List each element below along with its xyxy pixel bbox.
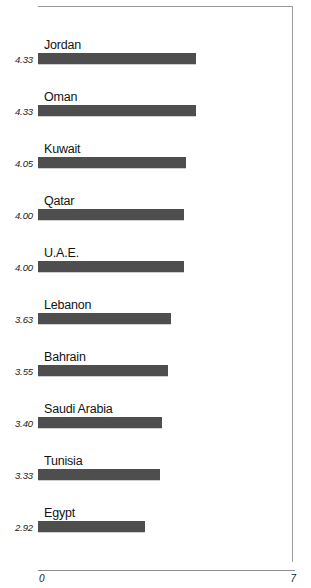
bar xyxy=(38,365,168,376)
bar-category-label: Qatar xyxy=(44,194,74,208)
bar-category-label: Tunisia xyxy=(44,454,82,468)
bar-category-label: Oman xyxy=(44,90,77,104)
bar-row: Egypt2.92 xyxy=(0,502,311,554)
bar-value-label: 3.63 xyxy=(0,314,33,325)
bar-category-label: Kuwait xyxy=(44,142,80,156)
bar-row: Lebanon3.63 xyxy=(0,294,311,346)
bar-category-label: Bahrain xyxy=(44,350,86,364)
bar-value-label: 4.00 xyxy=(0,262,33,273)
bar-row: Bahrain3.55 xyxy=(0,346,311,398)
x-axis-tick-min: 0 xyxy=(39,573,45,585)
bar-category-label: Jordan xyxy=(44,38,81,52)
bar-category-label: Egypt xyxy=(44,506,75,520)
bar-row: Kuwait4.05 xyxy=(0,138,311,190)
bar xyxy=(38,157,186,168)
x-axis-line xyxy=(38,570,295,571)
bar-row: Saudi Arabia3.40 xyxy=(0,398,311,450)
bar-row: Oman4.33 xyxy=(0,86,311,138)
bar xyxy=(38,53,196,64)
bar xyxy=(38,469,160,480)
bar-category-label: Saudi Arabia xyxy=(44,402,113,416)
bar xyxy=(38,521,145,532)
bar-row: Jordan4.33 xyxy=(0,34,311,86)
bar xyxy=(38,313,171,324)
bar-value-label: 4.33 xyxy=(0,54,33,65)
bar-row: Tunisia3.33 xyxy=(0,450,311,502)
x-axis-tick-max: 7 xyxy=(286,573,296,585)
bar xyxy=(38,261,184,272)
bar-value-label: 3.55 xyxy=(0,366,33,377)
bar-category-label: U.A.E. xyxy=(44,246,79,260)
bar-row: Qatar4.00 xyxy=(0,190,311,242)
chart-top-border xyxy=(38,6,293,7)
bar xyxy=(38,105,196,116)
bar-value-label: 4.05 xyxy=(0,158,33,169)
bar-category-label: Lebanon xyxy=(44,298,91,312)
bar xyxy=(38,209,184,220)
bar-row: U.A.E.4.00 xyxy=(0,242,311,294)
bar-chart: Jordan4.33Oman4.33Kuwait4.05Qatar4.00U.A… xyxy=(0,0,311,588)
bar-value-label: 4.00 xyxy=(0,210,33,221)
bar-value-label: 4.33 xyxy=(0,106,33,117)
bar-value-label: 3.33 xyxy=(0,470,33,481)
bar xyxy=(38,417,162,428)
bar-value-label: 3.40 xyxy=(0,418,33,429)
bar-value-label: 2.92 xyxy=(0,522,33,533)
